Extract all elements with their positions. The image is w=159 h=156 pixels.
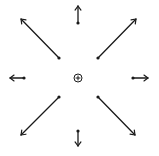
arrow-tail-dot <box>96 95 99 98</box>
arrow-tail-dot <box>131 76 134 79</box>
arrow-up-icon <box>75 6 81 25</box>
arrow-tail-dot <box>76 21 79 24</box>
arrow-right-icon <box>131 75 148 81</box>
arrows-group <box>10 6 148 146</box>
arrow-left-icon <box>10 75 26 81</box>
arrow-tail-dot <box>22 76 25 79</box>
expand-arrows-diagram <box>0 0 159 156</box>
arrow-up-right-icon <box>96 19 136 60</box>
arrow-tail-dot <box>57 56 60 59</box>
diagram-svg <box>0 0 159 156</box>
arrow-tail-dot <box>57 95 60 98</box>
arrow-tail-dot <box>96 56 99 59</box>
arrow-tail-dot <box>76 129 79 132</box>
arrow-down-right-icon <box>96 95 135 135</box>
arrow-down-icon <box>75 129 81 146</box>
arrow-down-left-icon <box>21 95 61 135</box>
arrow-up-left-icon <box>21 19 61 60</box>
center-crosshair-icon <box>74 74 82 82</box>
